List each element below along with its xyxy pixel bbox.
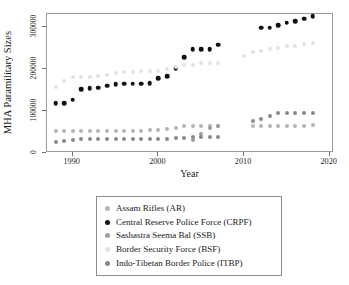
data-point-crpf xyxy=(302,16,307,21)
data-point-itbp xyxy=(268,114,272,118)
data-point-ar xyxy=(293,124,297,128)
data-point-itbp xyxy=(96,137,100,141)
legend-item-bsf[interactable]: Border Security Force (BSF) xyxy=(103,243,274,257)
data-point-crpf xyxy=(190,47,195,52)
y-axis-title: MHA Paramilitary Sizes xyxy=(2,13,13,152)
y-axis-tick-label: 300000 xyxy=(29,14,38,37)
data-point-bsf xyxy=(54,85,58,89)
data-point-bsf xyxy=(268,47,272,51)
data-point-itbp xyxy=(114,137,118,141)
data-point-bsf xyxy=(199,61,203,65)
legend-item-ssb[interactable]: Sashastra Seema Bal (SSB) xyxy=(103,229,274,243)
data-point-ssb xyxy=(216,124,220,128)
data-point-bsf xyxy=(208,61,212,65)
data-point-bsf xyxy=(156,69,160,73)
data-point-crpf xyxy=(96,85,101,90)
data-point-crpf xyxy=(267,26,272,31)
data-point-ar xyxy=(259,124,263,128)
legend-item-ar[interactable]: Assam Rifles (AR) xyxy=(103,202,274,216)
data-point-ssb xyxy=(208,126,212,130)
data-point-crpf xyxy=(53,101,58,106)
data-point-crpf xyxy=(182,55,187,60)
data-point-itbp xyxy=(311,111,315,115)
scatter-chart-figure: MHA Paramilitary Sizes 01000002000003000… xyxy=(0,0,349,285)
legend-item-label: Indo-Tibetan Border Police (ITBP) xyxy=(116,259,242,268)
legend-marker-icon xyxy=(105,206,110,211)
data-point-itbp xyxy=(88,137,92,141)
legend-item-label: Border Security Force (BSF) xyxy=(116,245,220,254)
data-point-bsf xyxy=(139,69,143,73)
data-point-bsf xyxy=(293,44,297,48)
data-point-bsf xyxy=(62,79,66,83)
data-point-itbp xyxy=(208,135,212,139)
x-axis-tick xyxy=(329,152,330,156)
data-point-ar xyxy=(251,124,255,128)
legend-marker-icon xyxy=(105,233,110,238)
data-point-itbp xyxy=(216,135,220,139)
data-point-bsf xyxy=(122,70,126,74)
data-point-bsf xyxy=(251,50,255,54)
legend-item-label: Central Reserve Police Force (CRPF) xyxy=(116,218,251,227)
legend-item-crpf[interactable]: Central Reserve Police Force (CRPF) xyxy=(103,216,274,230)
data-point-itbp xyxy=(285,111,289,115)
data-point-crpf xyxy=(259,26,264,31)
data-point-crpf xyxy=(293,19,298,24)
data-point-ar xyxy=(105,129,109,133)
data-point-ar xyxy=(131,129,135,133)
data-point-crpf xyxy=(88,86,93,91)
data-point-itbp xyxy=(71,138,75,142)
data-point-crpf xyxy=(70,97,75,102)
data-point-ar xyxy=(268,124,272,128)
data-point-itbp xyxy=(191,135,195,139)
data-point-ar xyxy=(276,124,280,128)
data-point-bsf xyxy=(96,74,100,78)
data-point-bsf xyxy=(88,75,92,79)
data-point-crpf xyxy=(156,76,161,81)
x-axis-tick-label: 2000 xyxy=(149,157,165,166)
data-point-itbp xyxy=(276,111,280,115)
data-point-itbp xyxy=(54,140,58,144)
data-point-bsf xyxy=(105,73,109,77)
data-point-ar xyxy=(88,129,92,133)
data-point-bsf xyxy=(114,71,118,75)
x-axis-tick xyxy=(157,152,158,156)
data-point-ar xyxy=(71,129,75,133)
data-point-itbp xyxy=(259,117,263,121)
data-point-crpf xyxy=(62,101,67,106)
data-point-itbp xyxy=(302,111,306,115)
data-point-ar xyxy=(79,129,83,133)
data-point-bsf xyxy=(242,54,246,58)
legend-item-label: Sashastra Seema Bal (SSB) xyxy=(116,231,215,240)
data-point-bsf xyxy=(191,63,195,67)
data-point-bsf xyxy=(276,46,280,50)
legend-marker-icon xyxy=(105,247,110,252)
data-point-crpf xyxy=(199,47,204,52)
data-point-crpf xyxy=(105,83,110,88)
legend-marker-icon xyxy=(105,220,110,225)
data-point-ar xyxy=(302,124,306,128)
y-axis-tick xyxy=(42,152,46,153)
data-points-layer xyxy=(47,14,332,151)
data-point-crpf xyxy=(310,14,315,19)
data-point-ar xyxy=(191,124,195,128)
data-point-crpf xyxy=(276,23,281,28)
data-point-ar xyxy=(96,129,100,133)
y-axis-tick-label: 100000 xyxy=(29,98,38,121)
data-point-ar xyxy=(165,127,169,131)
x-axis-tick-label: 2010 xyxy=(235,157,251,166)
data-point-itbp xyxy=(131,137,135,141)
legend-item-itbp[interactable]: Indo-Tibetan Border Police (ITBP) xyxy=(103,256,274,270)
data-point-ar xyxy=(114,129,118,133)
x-axis-tick xyxy=(243,152,244,156)
data-point-itbp xyxy=(199,135,203,139)
data-point-itbp xyxy=(165,137,169,141)
data-point-itbp xyxy=(62,139,66,143)
data-point-ar xyxy=(311,123,315,127)
x-axis-tick-label: 2020 xyxy=(321,157,337,166)
data-point-crpf xyxy=(285,21,290,26)
data-point-ar xyxy=(122,129,126,133)
data-point-bsf xyxy=(285,44,289,48)
data-point-crpf xyxy=(79,87,84,92)
data-point-crpf xyxy=(130,81,135,86)
chart-legend: Assam Rifles (AR)Central Reserve Police … xyxy=(96,196,282,276)
